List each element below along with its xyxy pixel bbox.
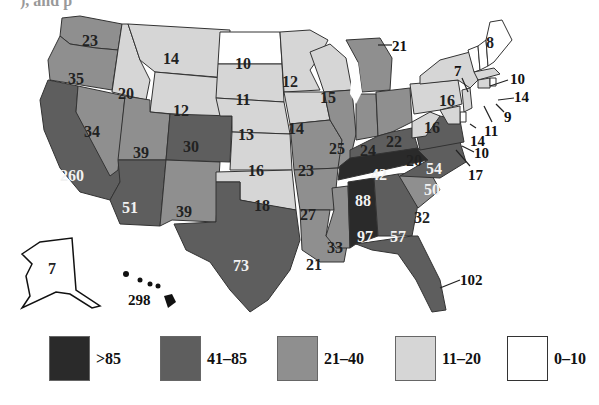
leader-fl [440,280,460,288]
label-sd: 11 [235,91,250,108]
label-ks: 16 [248,162,264,179]
label-or: 35 [68,70,84,87]
label-ak: 7 [48,260,56,277]
label-me: 8 [486,34,494,51]
label-oh: 22 [386,133,402,150]
us-choropleth-map: 23 35 260 34 20 14 12 39 51 30 39 10 11 … [0,0,599,330]
legend-label-41-85: 41–85 [207,350,247,368]
label-mo: 23 [298,162,314,179]
legend-label-11-20: 11–20 [442,350,481,368]
label-wa: 23 [82,32,98,49]
label-al: 97 [357,228,373,245]
label-de: 10 [474,145,489,161]
label-ny: 16 [439,92,455,109]
label-ms: 33 [327,239,343,256]
legend-item-11-20: 11–20 [395,336,481,381]
leader-ct [484,106,492,122]
label-az: 51 [122,199,138,216]
label-vt: 7 [454,63,462,79]
legend-label-21-40: 21–40 [324,350,364,368]
leader-nj [470,124,476,128]
label-nm: 39 [176,203,192,220]
label-nh: 10 [510,71,525,87]
legend-item-gt85: >85 [49,336,121,381]
state-nj [462,88,472,112]
label-hi: 298 [128,292,151,308]
label-pa: 16 [424,119,440,136]
label-ga: 57 [390,228,406,245]
state-ct [478,78,490,88]
state-ak [22,238,100,308]
state-fl [356,236,446,312]
label-ut: 39 [133,144,149,161]
legend-item-41-85: 41–85 [160,336,247,381]
leader-ri [496,104,504,112]
label-ca: 260 [60,167,84,184]
legend-item-21-40: 21–40 [277,336,364,381]
label-il: 25 [329,140,345,157]
legend-swatch-41-85 [160,336,201,381]
label-md: 17 [468,167,484,183]
label-wi: 15 [320,89,336,106]
label-ct: 11 [484,123,498,139]
legend-item-0-10: 0–10 [507,336,586,381]
label-wy: 12 [173,102,189,119]
legend: >85 41–85 21–40 11–20 0–10 [0,336,599,376]
label-wv: 20 [406,152,422,169]
label-fl: 102 [460,272,483,288]
state-co [166,114,232,162]
label-tx: 73 [233,257,249,274]
label-ia: 14 [288,120,304,137]
label-ar: 27 [300,206,316,223]
state-de [460,112,466,122]
label-ne: 13 [238,126,254,143]
label-ok: 18 [254,197,270,214]
label-va: 54 [426,160,442,177]
label-mi: 21 [392,38,407,54]
label-nc: 50 [424,181,440,198]
legend-swatch-gt85 [49,336,90,381]
label-in: 24 [360,142,376,159]
legend-label-0-10: 0–10 [554,350,586,368]
label-nd: 10 [235,55,251,72]
label-mn: 12 [282,73,298,90]
state-az [110,160,166,226]
legend-swatch-11-20 [395,336,436,381]
label-ri: 9 [504,109,512,125]
label-ky: 42 [371,166,387,183]
state-in [356,94,378,140]
label-ma: 14 [514,89,530,105]
label-la: 21 [306,256,322,273]
label-sc: 32 [414,209,430,226]
leader-ma [498,98,514,100]
legend-swatch-0-10 [507,336,548,381]
legend-label-gt85: >85 [96,350,121,368]
label-tn: 88 [355,192,371,209]
label-mt: 14 [163,50,179,67]
label-co: 30 [183,138,199,155]
legend-swatch-21-40 [277,336,318,381]
label-nv: 34 [84,123,100,140]
label-id: 20 [118,85,134,102]
